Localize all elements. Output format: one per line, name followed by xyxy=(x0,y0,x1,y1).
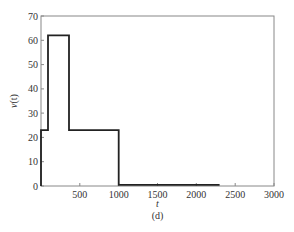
y-tick-label: 50 xyxy=(28,59,38,70)
y-tick-label: 10 xyxy=(28,156,38,167)
x-tick-label: 2500 xyxy=(225,189,245,200)
y-tick-labels: 0 10 20 30 40 50 60 70 xyxy=(28,11,38,192)
y-tick-label: 40 xyxy=(28,83,38,94)
y-tick-label: 30 xyxy=(28,108,38,119)
y-axis-label: v(t) xyxy=(8,94,20,108)
x-axis-label: t xyxy=(156,198,159,209)
plot-frame xyxy=(41,16,274,186)
y-tick-label: 20 xyxy=(28,132,38,143)
step-chart: 0 10 20 30 40 50 60 70 500 1000 1500 200… xyxy=(0,0,294,232)
x-tick-label: 1000 xyxy=(109,189,129,200)
y-tick-label: 70 xyxy=(28,11,38,22)
x-tick-labels: 500 1000 1500 2000 2500 3000 xyxy=(72,189,284,200)
step-series-line xyxy=(41,35,220,186)
x-tick-label: 2000 xyxy=(186,189,206,200)
y-tick-label: 0 xyxy=(33,181,38,192)
svg-text:v(t): v(t) xyxy=(8,94,20,108)
figure-caption: (d) xyxy=(152,210,164,222)
x-tick-label: 3000 xyxy=(264,189,284,200)
x-tick-label: 500 xyxy=(72,189,87,200)
y-axis-label-arg: (t) xyxy=(8,94,20,103)
y-tick-label: 60 xyxy=(28,35,38,46)
